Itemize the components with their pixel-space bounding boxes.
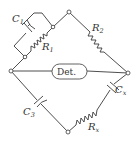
- label-r1: R1: [41, 41, 54, 54]
- label-rx: Rx: [87, 121, 100, 134]
- junction-node: [23, 55, 27, 59]
- arm-rx-cx: [68, 73, 128, 132]
- label-c1: C1: [12, 13, 24, 26]
- junction-node: [51, 25, 55, 29]
- label-cx: Cx: [115, 84, 127, 97]
- capacitor-c3: [11, 71, 68, 132]
- bridge-circuit-diagram: Det. C1 R1 R2 C3 Cx Rx: [0, 0, 139, 144]
- right-node: [126, 71, 130, 75]
- bottom-node: [66, 130, 70, 134]
- label-r2: R2: [91, 22, 104, 35]
- top-node: [67, 10, 71, 14]
- detector-label: Det.: [57, 67, 76, 77]
- left-node: [9, 69, 13, 73]
- label-c3: C3: [23, 106, 35, 119]
